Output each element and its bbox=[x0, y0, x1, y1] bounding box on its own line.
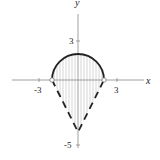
tick-label-x-3: 3 bbox=[114, 85, 119, 95]
tick-label-x-neg3: -3 bbox=[34, 85, 42, 95]
graph: x y -3 3 3 -5 bbox=[0, 0, 160, 160]
open-point-left bbox=[50, 78, 54, 82]
tick-label-y-neg5: -5 bbox=[64, 140, 72, 150]
open-point-right bbox=[102, 78, 106, 82]
tick-label-y-3: 3 bbox=[69, 36, 74, 46]
y-axis-label: y bbox=[74, 0, 80, 8]
x-axis-label: x bbox=[145, 75, 151, 86]
